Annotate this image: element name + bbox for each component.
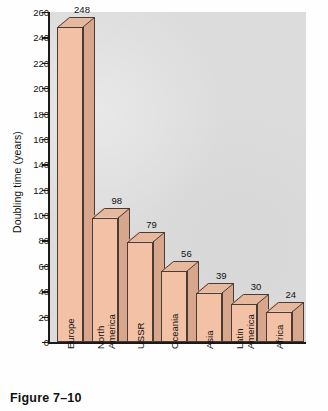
- y-tick-label: 0: [19, 338, 49, 348]
- y-tick-label: 240: [19, 33, 49, 43]
- bar-front-face: [57, 27, 83, 342]
- y-tick-label: 220: [19, 58, 49, 68]
- bar-europe[interactable]: [57, 17, 95, 342]
- y-tick-label: 200: [19, 84, 49, 94]
- x-label-line: America: [106, 314, 117, 349]
- x-label-north-america: NorthAmerica: [96, 314, 117, 349]
- x-label-line: Latin: [235, 314, 246, 349]
- y-tick-label: 260: [19, 8, 49, 18]
- x-label-africa: Africa: [275, 325, 286, 349]
- x-label-line: USSR: [136, 323, 147, 349]
- y-tick-label: 40: [19, 287, 49, 297]
- y-tick-label: 100: [19, 211, 49, 221]
- y-tick-label: 20: [19, 312, 49, 322]
- x-label-ussr: USSR: [136, 323, 147, 349]
- x-label-line: Africa: [275, 325, 286, 349]
- x-label-line: North: [96, 314, 107, 349]
- y-tick-label: 60: [19, 261, 49, 271]
- bar-top-outline: [161, 261, 199, 272]
- y-tick-label: 160: [19, 134, 49, 144]
- x-label-line: America: [246, 314, 257, 349]
- y-tick-label: 140: [19, 160, 49, 170]
- figure-container: 020406080100120140160180200220240260 Dou…: [0, 0, 328, 411]
- x-label-line: Asia: [205, 331, 216, 349]
- bar-top-outline: [57, 17, 95, 28]
- x-label-line: Oceania: [170, 314, 181, 349]
- y-tick-label: 80: [19, 236, 49, 246]
- x-label-latin-america: LatinAmerica: [235, 314, 256, 349]
- bar-top-outline: [196, 283, 234, 294]
- y-tick-label: 120: [19, 185, 49, 195]
- bar-top-outline: [92, 208, 130, 219]
- bar-top-outline: [231, 294, 269, 305]
- y-tick-label: 180: [19, 109, 49, 119]
- bar-top-outline: [266, 302, 304, 313]
- x-label-line: Europe: [66, 318, 77, 349]
- x-label-asia: Asia: [205, 331, 216, 349]
- figure-caption: Figure 7–10: [10, 391, 82, 405]
- bar-top-outline: [127, 232, 165, 243]
- y-axis-title: Doubling time (years): [11, 102, 23, 262]
- x-label-oceania: Oceania: [170, 314, 181, 349]
- x-label-europe: Europe: [66, 318, 77, 349]
